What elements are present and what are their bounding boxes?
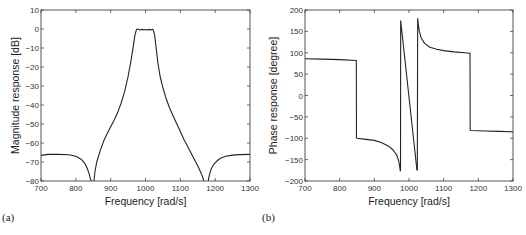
magnitude-x-tick-label: 1300: [241, 184, 259, 193]
magnitude-curve-segment-2: [208, 154, 250, 181]
magnitude-x-tick-label: 800: [69, 184, 83, 193]
magnitude-y-tick-label: −30: [25, 82, 39, 91]
phase-curve-segment-2: [417, 19, 513, 171]
magnitude-x-tick-label: 900: [104, 184, 118, 193]
figure: 7008009001000110012001300 100−10−20−30−4…: [0, 0, 526, 235]
magnitude-y-tick-label: 10: [30, 6, 39, 15]
magnitude-x-axis-label: Frequency [rad/s]: [105, 195, 187, 207]
phase-y-ticks: 200150100500−50−100−150−200: [285, 6, 513, 186]
magnitude-x-ticks: 7008009001000110012001300: [34, 10, 259, 193]
phase-y-tick-label: 150: [290, 27, 304, 36]
magnitude-y-tick-label: −10: [25, 44, 39, 53]
magnitude-y-tick-label: −60: [25, 139, 39, 148]
phase-y-tick-label: −150: [285, 156, 304, 165]
phase-x-axis-label: Frequency [rad/s]: [368, 195, 450, 207]
phase-y-tick-label: 200: [290, 6, 304, 15]
phase-y-tick-label: 0: [299, 92, 304, 101]
magnitude-x-tick-label: 1000: [137, 184, 155, 193]
phase-y-tick-label: −200: [285, 177, 304, 186]
magnitude-curve-layer: [41, 29, 250, 181]
magnitude-y-ticks: 100−10−20−30−40−50−60−70−80: [25, 6, 250, 186]
magnitude-y-tick-label: 0: [35, 25, 40, 34]
magnitude-chart: 7008009001000110012001300 100−10−20−30−4…: [2, 6, 259, 224]
phase-x-tick-label: 1300: [504, 184, 522, 193]
phase-y-tick-label: 50: [294, 70, 303, 79]
magnitude-curve-segment-1: [94, 29, 204, 181]
magnitude-y-tick-label: −70: [25, 158, 39, 167]
phase-y-tick-label: 100: [290, 49, 304, 58]
magnitude-curve-segment-0: [41, 154, 92, 181]
magnitude-x-tick-label: 1200: [206, 184, 224, 193]
phase-curve-segment-1: [401, 21, 418, 171]
phase-x-tick-label: 1200: [469, 184, 487, 193]
phase-x-tick-label: 900: [368, 184, 382, 193]
phase-y-axis-label: Phase response [degree]: [267, 37, 279, 154]
phase-curve-segment-0: [305, 59, 400, 171]
panel-label-a: (a): [2, 211, 15, 224]
magnitude-y-tick-label: −80: [25, 177, 39, 186]
magnitude-y-tick-label: −50: [25, 120, 39, 129]
phase-x-tick-label: 1100: [435, 184, 453, 193]
magnitude-y-tick-label: −40: [25, 101, 39, 110]
phase-y-tick-label: −100: [285, 134, 304, 143]
phase-chart: 7008009001000110012001300 200150100500−5…: [262, 6, 522, 224]
magnitude-y-axis-label: Magnitude response [dB]: [9, 37, 21, 154]
phase-x-ticks: 7008009001000110012001300: [298, 10, 522, 193]
magnitude-y-tick-label: −20: [25, 63, 39, 72]
phase-y-tick-label: −50: [289, 113, 303, 122]
magnitude-x-tick-label: 1100: [172, 184, 190, 193]
phase-x-tick-label: 1000: [400, 184, 418, 193]
panel-label-b: (b): [262, 211, 275, 224]
phase-curve-layer: [305, 19, 513, 172]
phase-x-tick-label: 800: [333, 184, 347, 193]
